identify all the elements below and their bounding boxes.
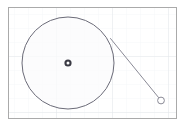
circle-center-point[interactable] [65,60,70,65]
figure-container [0,0,185,126]
geometry-figure [0,0,185,126]
external-point[interactable] [158,97,165,104]
